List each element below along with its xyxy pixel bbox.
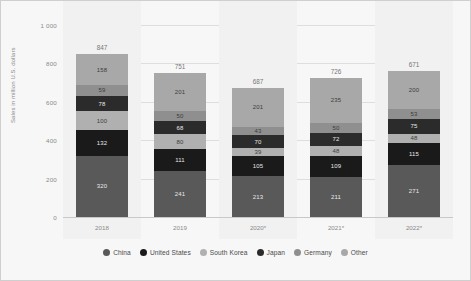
bar-segment[interactable]: 59	[76, 85, 128, 96]
bar-segment-value: 109	[331, 163, 341, 169]
x-axis-tick-label: 2019	[173, 224, 187, 231]
legend-label: China	[113, 249, 131, 256]
bar-segment-value: 201	[175, 89, 185, 95]
bar-segment[interactable]: 50	[310, 123, 362, 133]
x-axis-tick-label: 2020*	[250, 224, 266, 231]
bar-segment-value: 43	[255, 128, 262, 134]
bar-segment-value: 78	[99, 101, 106, 107]
y-axis-tick-label: 600	[46, 98, 57, 105]
legend-item-other[interactable]: Other	[341, 249, 368, 256]
y-axis-title: Sales in million U.S. dollars	[10, 47, 16, 123]
legend-label: United States	[150, 249, 191, 256]
y-axis-tick-label: 1 000	[41, 22, 57, 29]
bar-segment-value: 72	[333, 136, 340, 142]
bar-segment[interactable]: 50	[154, 111, 206, 121]
y-axis-tick-label: 400	[46, 137, 57, 144]
bar-total-label: 726	[331, 68, 342, 75]
bar-segment-value: 80	[177, 139, 184, 145]
bar-segment[interactable]: 158	[76, 54, 128, 84]
legend-color-swatch	[140, 249, 147, 256]
bar-segment-value: 50	[333, 125, 340, 131]
bar-segment[interactable]: 235	[310, 78, 362, 123]
bar-segment[interactable]: 78	[76, 96, 128, 111]
legend-item-japan[interactable]: Japan	[257, 249, 285, 256]
legend-label: South Korea	[210, 249, 248, 256]
bar-total-label: 671	[409, 61, 420, 68]
stacked-bar[interactable]: 201506880111241	[154, 73, 206, 217]
bar-segment[interactable]: 115	[388, 143, 440, 165]
bar-segment[interactable]: 70	[232, 135, 284, 148]
legend-item-south-korea[interactable]: South Korea	[200, 249, 248, 256]
legend-label: Japan	[267, 249, 285, 256]
bar-total-label: 847	[97, 44, 108, 51]
legend-item-germany[interactable]: Germany	[294, 249, 332, 256]
stacked-bar[interactable]: 1585978100132320	[76, 54, 128, 217]
bar-segment[interactable]: 53	[388, 109, 440, 119]
bar-segment-value: 320	[97, 183, 107, 189]
legend-item-china[interactable]: China	[103, 249, 131, 256]
bar-segment[interactable]: 39	[232, 148, 284, 155]
bar-segment[interactable]: 75	[388, 119, 440, 133]
bar-segment[interactable]: 211	[310, 177, 362, 218]
bar-segment-value: 271	[409, 188, 419, 194]
legend-item-united-states[interactable]: United States	[140, 249, 191, 256]
bar-segment-value: 53	[411, 111, 418, 117]
bar-segment[interactable]: 241	[154, 171, 206, 217]
bar-segment[interactable]: 80	[154, 134, 206, 149]
x-axis-tick-label: 2022*	[406, 224, 422, 231]
bar-segment-value: 235	[331, 97, 341, 103]
y-axis-tick-label: 800	[46, 60, 57, 67]
bar-total-label: 687	[253, 78, 264, 85]
bar-segment[interactable]: 201	[154, 73, 206, 112]
legend-label: Germany	[304, 249, 332, 256]
bar-segment-value: 200	[409, 87, 419, 93]
bar-segment[interactable]: 271	[388, 165, 440, 217]
bar-segment[interactable]: 111	[154, 149, 206, 170]
legend-label: Other	[351, 249, 368, 256]
bar-group: 2005375481152716712022*	[375, 25, 453, 217]
bar-segment-value: 70	[255, 139, 262, 145]
bar-segment[interactable]: 320	[76, 156, 128, 217]
bar-segment[interactable]: 48	[388, 134, 440, 143]
bar-segment[interactable]: 109	[310, 156, 362, 177]
legend-color-swatch	[103, 249, 110, 256]
legend-color-swatch	[200, 249, 207, 256]
x-axis-tick-label: 2018	[95, 224, 109, 231]
bar-segment[interactable]: 200	[388, 71, 440, 109]
bar-segment-value: 132	[97, 140, 107, 146]
bar-segment-value: 211	[331, 194, 341, 200]
bar-segment-value: 68	[177, 125, 184, 131]
bar-segment-value: 100	[97, 118, 107, 124]
bar-total-label: 751	[175, 63, 186, 70]
bar-segment[interactable]: 213	[232, 176, 284, 217]
y-axis-tick-label: 0	[53, 214, 57, 221]
bar-segment-value: 48	[333, 148, 340, 154]
stacked-bar[interactable]: 200537548115271	[388, 71, 440, 217]
bar-segment-value: 39	[255, 149, 262, 155]
plot-area: 02004006008001 000 158597810013232084720…	[63, 25, 453, 217]
bar-segment[interactable]: 201	[232, 88, 284, 127]
bar-group: 2015068801112417512019	[141, 25, 219, 217]
legend-color-swatch	[341, 249, 348, 256]
bar-group: 2355072481092117262021*	[297, 25, 375, 217]
bar-segment-value: 50	[177, 113, 184, 119]
stacked-bar[interactable]: 235507248109211	[310, 78, 362, 217]
stacked-bar[interactable]: 201437039105213	[232, 88, 284, 217]
bar-segment[interactable]: 48	[310, 146, 362, 155]
bar-segment[interactable]: 43	[232, 127, 284, 135]
bar-segment-value: 75	[411, 123, 418, 129]
legend-color-swatch	[257, 249, 264, 256]
bar-segment-value: 111	[175, 157, 184, 163]
x-axis-line	[63, 217, 453, 218]
bar-segment[interactable]: 72	[310, 133, 362, 147]
x-axis-tick-label: 2021*	[328, 224, 344, 231]
bar-segment[interactable]: 132	[76, 130, 128, 155]
bar-segment[interactable]: 100	[76, 111, 128, 130]
y-axis-tick-label: 200	[46, 175, 57, 182]
bar-segment[interactable]: 68	[154, 121, 206, 134]
bars-layer: 1585978100132320847201820150688011124175…	[63, 25, 453, 217]
chart-card: Sales in million U.S. dollars 0200400600…	[0, 0, 471, 281]
bar-segment-value: 115	[409, 151, 419, 157]
bar-segment-value: 213	[253, 194, 263, 200]
bar-segment[interactable]: 105	[232, 156, 284, 176]
